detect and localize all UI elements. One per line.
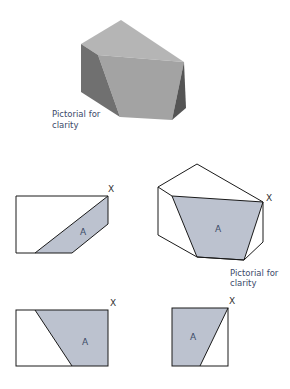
isometric-area-label: A	[215, 224, 222, 234]
end-view-corner-label: X	[229, 296, 235, 306]
front-view-area-label: A	[80, 227, 87, 237]
diagram-canvas: Pictorial for clarity A X A X Pictorial …	[0, 0, 290, 389]
end-view-area-label: A	[190, 332, 197, 342]
isometric-edge	[158, 187, 172, 196]
pictorial-solid	[81, 20, 186, 120]
end-view-shaded-area	[172, 308, 228, 366]
front-view: A X	[16, 184, 114, 253]
plan-view-area-label: A	[82, 337, 89, 347]
pictorial-caption-line1: Pictorial for	[52, 109, 101, 119]
end-view: A X	[172, 296, 235, 366]
isometric-caption-line2: clarity	[230, 278, 256, 288]
plan-view-shaded-area	[35, 310, 108, 366]
isometric-view: A X Pictorial for clarity	[158, 164, 279, 288]
plan-view: A X	[16, 298, 116, 366]
plan-view-corner-label: X	[110, 298, 116, 308]
isometric-corner-label: X	[266, 193, 272, 203]
isometric-caption-line1: Pictorial for	[230, 268, 279, 278]
front-view-corner-label: X	[108, 184, 114, 194]
pictorial-caption-line2: clarity	[52, 120, 78, 130]
